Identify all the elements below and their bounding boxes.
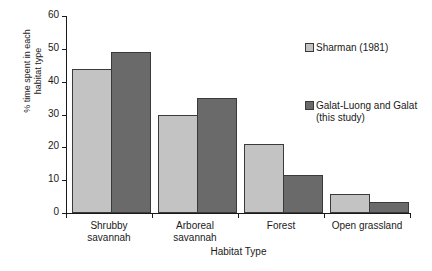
bar-arboreal-galat (197, 98, 237, 213)
y-tick-40: 40 (62, 82, 66, 83)
y-tick-label-30: 30 (48, 108, 59, 119)
y-tick-10: 10 (62, 180, 66, 181)
legend-item-galat: Galat-Luong and Galat (this study) (305, 100, 417, 124)
y-tick-30: 30 (62, 115, 66, 116)
y-tick-label-10: 10 (48, 173, 59, 184)
y-tick-label-60: 60 (48, 9, 59, 20)
bar-forest-galat (283, 175, 323, 213)
y-tick-20: 20 (62, 147, 66, 148)
x-tick-3 (324, 214, 325, 218)
bar-shrubby-sharman (72, 69, 112, 213)
bar-grassland-sharman (330, 194, 370, 213)
y-tick-50: 50 (62, 49, 66, 50)
x-tick-0 (66, 214, 67, 218)
legend-swatch-icon-galat (305, 101, 314, 110)
bar-grassland-galat (369, 202, 409, 213)
legend-label-sharman: Sharman (1981) (316, 42, 388, 54)
x-category-label-arboreal: Arboreal savannah (149, 220, 241, 244)
y-tick-label-40: 40 (48, 75, 59, 86)
bar-forest-sharman (244, 144, 284, 213)
y-tick-60: 60 (62, 16, 66, 17)
bar-shrubby-galat (111, 52, 151, 213)
x-tick-4 (410, 214, 411, 218)
y-axis-title: % time spent in each habitat type (22, 0, 44, 151)
x-tick-1 (152, 214, 153, 218)
bar-arboreal-sharman (158, 115, 198, 214)
y-axis-line (66, 16, 67, 214)
legend-label-galat: Galat-Luong and Galat (this study) (316, 100, 417, 124)
x-category-label-grassland: Open grassland (321, 220, 413, 232)
x-axis-title: Habitat Type (66, 246, 411, 257)
y-tick-label-0: 0 (53, 206, 59, 217)
legend-item-sharman: Sharman (1981) (305, 42, 388, 54)
legend-swatch-icon-sharman (305, 43, 314, 52)
x-category-label-forest: Forest (235, 220, 327, 232)
x-category-label-shrubby: Shrubby savannah (63, 220, 155, 244)
y-tick-label-20: 20 (48, 140, 59, 151)
x-tick-2 (238, 214, 239, 218)
y-tick-label-50: 50 (48, 42, 59, 53)
bar-chart: % time spent in each habitat type 60 50 … (0, 0, 432, 271)
